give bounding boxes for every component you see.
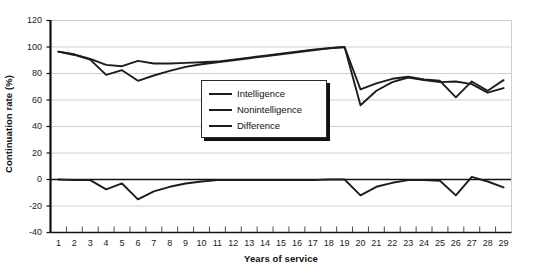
y-axis-tick-label: -40 <box>8 227 42 238</box>
continuation-rate-line-chart: Continuation rate (%) 120100806040200-20… <box>0 0 543 274</box>
legend-item-label: Intelligence <box>237 88 285 100</box>
legend-item-nonintelligence: Nonintelligence <box>209 102 326 118</box>
y-axis-tick-label: 20 <box>8 148 42 159</box>
legend-line-icon <box>209 93 232 95</box>
legend-item-label: Difference <box>237 120 280 132</box>
y-axis-tick-label: -20 <box>8 201 42 212</box>
y-axis-tick-label: 100 <box>8 42 42 53</box>
x-axis-tick-label: 29 <box>495 238 513 249</box>
legend-item-difference: Difference <box>209 118 326 134</box>
legend-item-intelligence: Intelligence <box>209 86 326 102</box>
y-axis-tick-label: 80 <box>8 68 42 79</box>
chart-legend: Intelligence Nonintelligence Difference <box>201 80 327 138</box>
legend-line-icon <box>209 109 232 111</box>
y-axis-tick-label: 120 <box>8 15 42 26</box>
legend-line-icon <box>209 125 232 127</box>
y-axis-tick-label: 0 <box>8 174 42 185</box>
legend-item-label: Nonintelligence <box>237 104 302 116</box>
y-axis-tick-label: 40 <box>8 121 42 132</box>
x-axis-title: Years of service <box>50 252 512 266</box>
y-axis-tick-label: 60 <box>8 95 42 106</box>
